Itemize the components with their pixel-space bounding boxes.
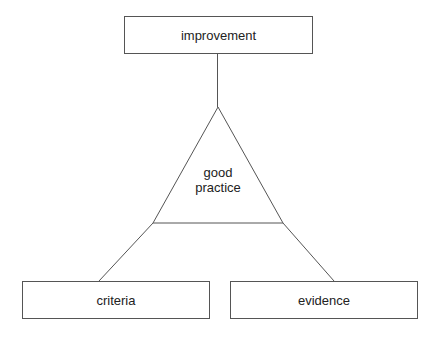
- node-criteria-label: criteria: [96, 293, 135, 308]
- node-good-practice-line1: good: [178, 165, 258, 180]
- node-improvement-label: improvement: [181, 28, 256, 43]
- node-criteria: criteria: [22, 281, 210, 319]
- node-good-practice-line2: practice: [178, 180, 258, 195]
- node-evidence: evidence: [230, 281, 418, 319]
- node-evidence-label: evidence: [298, 293, 350, 308]
- node-good-practice: good practice: [178, 165, 258, 195]
- connector-right: [283, 223, 334, 281]
- connector-left: [99, 223, 153, 281]
- node-improvement: improvement: [124, 16, 313, 54]
